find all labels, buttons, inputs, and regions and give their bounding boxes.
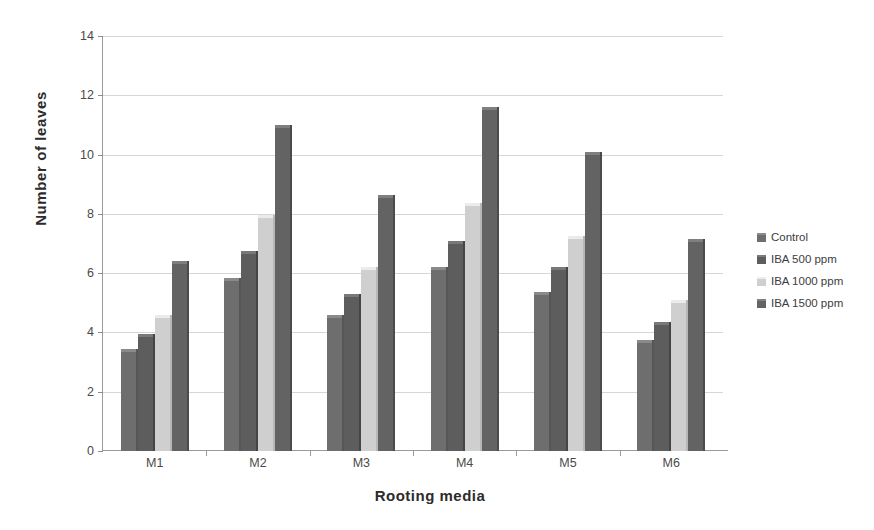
bar [551,267,568,451]
legend-label: Control [771,231,808,243]
bar-chart: Number of leaves 02468101214 M1M2M3M4M5M… [0,0,874,530]
x-axis-tick-mark [413,451,414,456]
legend-label: IBA 1500 ppm [771,297,843,309]
legend: ControlIBA 500 ppmIBA 1000 ppmIBA 1500 p… [757,231,872,319]
bar [121,349,138,451]
legend-swatch-icon [757,299,766,308]
bar [568,236,585,451]
bar-groups [103,36,723,451]
x-axis-tick-label: M4 [413,456,516,470]
bar [482,107,499,451]
y-axis-tick-label: 4 [87,325,94,339]
y-axis-tick-label: 2 [87,385,94,399]
bar-side-edge [187,261,189,451]
x-axis-tick-label: M3 [310,456,413,470]
bar [585,152,602,451]
bar-side-edge [393,195,395,451]
legend-item: IBA 500 ppm [757,253,872,265]
bar [327,315,344,451]
y-axis-tick-mark [98,451,103,452]
bar-side-edge [703,239,705,451]
legend-item: Control [757,231,872,243]
bar-group [103,36,206,451]
legend-swatch-icon [757,277,766,286]
plot-area: 02468101214 [103,36,723,451]
bar [241,251,258,451]
bar [275,125,292,451]
bar [155,315,172,451]
x-axis-tick-label: M5 [516,456,619,470]
bar [361,267,378,451]
y-axis-tick-label: 0 [87,444,94,458]
y-axis-tick-label: 14 [80,29,94,43]
y-axis-tick-label: 10 [80,148,94,162]
bar [534,292,551,451]
y-axis-tick-label: 6 [87,266,94,280]
bar [138,334,155,451]
bar-group [620,36,723,451]
bar-group [516,36,619,451]
x-axis-tick-mark [516,451,517,456]
legend-swatch-icon [757,255,766,264]
bar-side-edge [290,125,292,451]
x-axis-tick-mark [620,451,621,456]
y-axis-title: Number of leaves [32,49,49,269]
legend-item: IBA 1500 ppm [757,297,872,309]
bar [637,340,654,451]
x-axis-tick-label: M2 [206,456,309,470]
legend-label: IBA 1000 ppm [771,275,843,287]
legend-item: IBA 1000 ppm [757,275,872,287]
y-axis-tick-label: 12 [80,88,94,102]
bar [258,215,275,451]
y-axis-tick-label: 8 [87,207,94,221]
x-axis-tick-labels: M1M2M3M4M5M6 [103,456,723,470]
bar [465,203,482,451]
bar [448,241,465,451]
bar [654,322,671,451]
bar [671,300,688,451]
legend-swatch-icon [757,233,766,242]
legend-swatch-cap [757,255,766,257]
bar-group [413,36,516,451]
x-axis-tick-mark [310,451,311,456]
bar-group [310,36,413,451]
bar-side-edge [600,152,602,451]
bar [344,294,361,451]
x-axis-tick-label: M1 [103,456,206,470]
bar-group [206,36,309,451]
legend-swatch-cap [757,277,766,279]
bar [172,261,189,451]
legend-label: IBA 500 ppm [771,253,837,265]
x-axis-title: Rooting media [100,487,760,504]
bar [378,195,395,451]
bar [224,278,241,451]
x-axis-tick-mark [206,451,207,456]
legend-swatch-cap [757,233,766,235]
legend-swatch-cap [757,299,766,301]
bar [688,239,705,451]
bar [431,267,448,451]
x-axis-tick-label: M6 [620,456,723,470]
bar-side-edge [497,107,499,451]
